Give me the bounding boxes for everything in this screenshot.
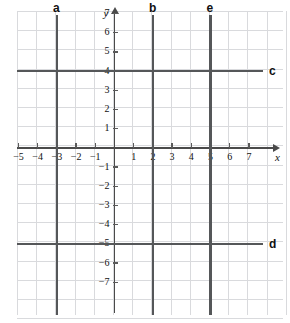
x-axis-tick	[133, 143, 134, 148]
y-axis	[114, 13, 116, 313]
y-axis-tick	[113, 128, 118, 129]
x-axis-tick	[248, 143, 249, 148]
grid-line-vertical	[171, 11, 172, 315]
y-axis-tick-label: −3	[89, 199, 110, 210]
y-axis-tick-label: 5	[89, 45, 110, 56]
y-axis-tick	[113, 186, 118, 187]
y-axis-tick	[113, 51, 118, 52]
y-axis-tick	[113, 166, 118, 167]
y-axis-tick-label: −6	[89, 257, 110, 268]
x-axis-tick	[191, 143, 192, 148]
grid-line-vertical	[190, 11, 191, 315]
x-axis-tick	[18, 143, 19, 148]
x-axis-tick-label: 7	[239, 151, 259, 162]
y-axis-tick	[113, 224, 118, 225]
plot-line-e	[209, 15, 211, 315]
y-axis-tick	[113, 109, 118, 110]
y-axis-tick-label: 6	[89, 26, 110, 37]
y-axis-tick-label: −1	[89, 161, 110, 172]
x-axis-tick-label: −2	[66, 151, 86, 162]
x-axis-tick-label: −5	[9, 151, 29, 162]
y-axis-tick-label: −4	[89, 218, 110, 229]
y-axis-tick-label: 3	[89, 84, 110, 95]
y-axis-tick	[113, 32, 118, 33]
y-axis-tick	[113, 13, 118, 14]
x-axis-tick-label: −4	[28, 151, 48, 162]
y-axis-tick	[113, 282, 118, 283]
grid-line-vertical	[17, 11, 18, 315]
line-label-e: e	[207, 1, 214, 15]
x-axis-tick	[171, 143, 172, 148]
plot-line-c	[17, 70, 263, 72]
grid-line-horizontal	[17, 318, 283, 319]
grid-line-vertical	[132, 11, 133, 315]
plot-line-a	[56, 15, 58, 315]
plot-line-d	[17, 243, 263, 245]
y-axis-tick	[113, 90, 118, 91]
coordinate-plane-figure: −5−4−3−2−112345677654321−1−2−3−4−5−6−7xy…	[0, 0, 290, 323]
x-axis-tick-label: 6	[220, 151, 240, 162]
grid-line-vertical	[75, 11, 76, 315]
y-axis-tick	[113, 205, 118, 206]
x-axis-tick	[229, 143, 230, 148]
x-axis-tick	[37, 143, 38, 148]
x-axis-tick-label: 1	[124, 151, 144, 162]
y-axis-name-label: y	[104, 7, 109, 19]
y-axis-tick-label: 2	[89, 103, 110, 114]
y-axis-tick-label: −2	[89, 180, 110, 191]
y-axis-tick-label: 1	[89, 122, 110, 133]
plot-line-b	[152, 15, 154, 315]
y-axis-tick	[113, 262, 118, 263]
grid-line-vertical	[247, 11, 248, 315]
y-axis-tick-label: −7	[89, 276, 110, 287]
x-axis-tick-label: 4	[181, 151, 201, 162]
x-axis-tick	[75, 143, 76, 148]
x-axis-name-label: x	[275, 151, 280, 163]
grid-line-vertical	[286, 11, 287, 315]
grid-line-vertical	[228, 11, 229, 315]
line-label-c: c	[269, 64, 276, 78]
line-label-b: b	[149, 1, 156, 15]
line-label-a: a	[53, 1, 60, 15]
grid-line-vertical	[267, 11, 268, 315]
x-axis-tick-label: 3	[162, 151, 182, 162]
line-label-d: d	[269, 237, 276, 251]
grid-line-vertical	[36, 11, 37, 315]
x-axis-tick	[95, 143, 96, 148]
